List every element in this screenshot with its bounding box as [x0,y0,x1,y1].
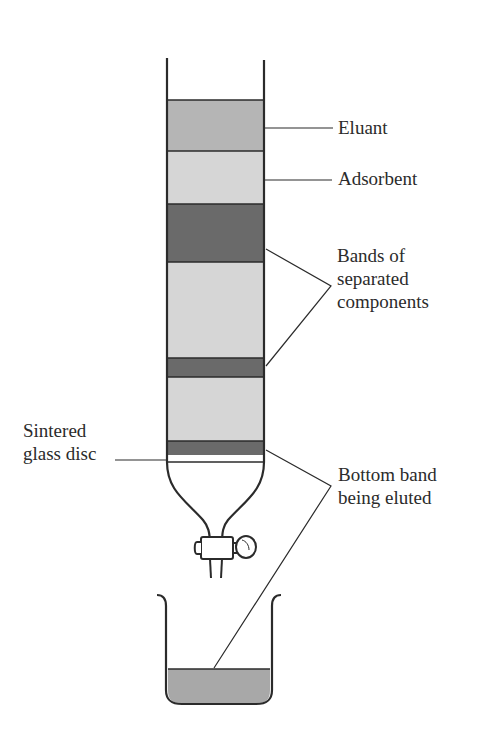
label-disc-line1: Sintered [23,420,86,442]
label-adsorbent: Adsorbent [338,168,417,190]
stopcock[interactable] [195,536,256,578]
label-bottom-line1: Bottom band [338,464,437,486]
label-eluant: Eluant [338,117,388,139]
collection-beaker [157,595,281,704]
chromatography-column-diagram [0,0,491,735]
label-bands-line3: components [337,291,429,313]
layer-adsorbent [167,151,264,204]
layer-band-2 [167,358,264,377]
bands-leader [266,249,331,366]
layer-adsorbent-gap-1 [167,262,264,358]
label-bottom-line2: being eluted [338,487,431,509]
label-disc-line2: glass disc [23,443,96,465]
label-bands-line1: Bands of [337,245,405,267]
sintered-glass-disc [168,455,264,462]
label-bands-line2: separated [337,268,409,290]
column-layers [167,100,264,455]
layer-adsorbent-gap-2 [167,377,264,441]
layer-band-1 [167,204,264,262]
layer-band-3-bottom [167,441,264,455]
layer-eluant [167,100,264,151]
